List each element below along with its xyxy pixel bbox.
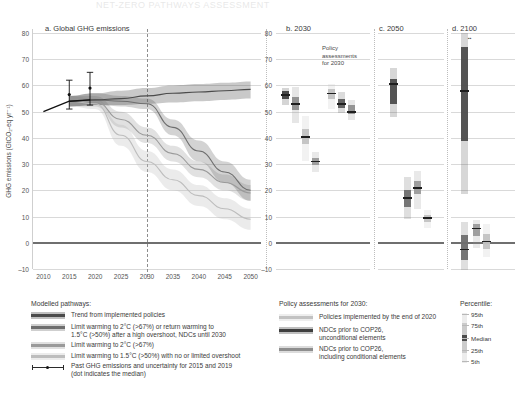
gridline bbox=[378, 269, 444, 270]
panel-a-title: a. Global GHG emissions bbox=[45, 24, 130, 33]
median-marker bbox=[347, 111, 356, 113]
percentile-segment bbox=[348, 114, 355, 119]
panel-a-plot: GHG emissions (GtCO₂-eq yr⁻¹) 8070605040… bbox=[33, 33, 261, 269]
y-tick-label: 70 bbox=[265, 56, 272, 63]
percentile-box bbox=[461, 222, 468, 271]
legend-item-label: Trend from implemented policies bbox=[71, 311, 271, 319]
panel-b-title: b. 2030 bbox=[286, 24, 311, 33]
percentile-segment bbox=[414, 194, 421, 208]
median-marker bbox=[291, 103, 300, 105]
median-marker bbox=[311, 161, 320, 163]
gridline bbox=[276, 85, 370, 86]
y-tick-label: 50 bbox=[22, 108, 29, 115]
panel-d-separator bbox=[447, 29, 448, 269]
pathway-band bbox=[69, 82, 250, 107]
median-marker bbox=[413, 187, 422, 189]
percentile-box bbox=[348, 100, 355, 120]
percentile-segment bbox=[390, 68, 397, 78]
percentile-segment bbox=[292, 87, 299, 97]
percentile-leader-line bbox=[462, 325, 469, 326]
percentile-segment bbox=[328, 99, 335, 109]
panel-d-off-scale-marker: ▪▪ bbox=[468, 35, 472, 41]
gridline bbox=[378, 217, 444, 218]
percentile-segment bbox=[461, 47, 468, 140]
panel-c-plot bbox=[378, 33, 444, 269]
legend-right-title: Policy assessments for 2030: bbox=[279, 300, 367, 307]
percentile-box bbox=[292, 87, 299, 124]
y-tick-label: 10 bbox=[22, 213, 29, 220]
panel-c-title: c. 2050 bbox=[379, 24, 404, 33]
percentile-segment bbox=[390, 104, 397, 117]
median-marker bbox=[301, 136, 310, 138]
legend-percentile-title: Percentile: bbox=[460, 300, 492, 307]
percentile-segment bbox=[462, 341, 467, 353]
legend-swatch bbox=[31, 353, 65, 360]
gridline bbox=[378, 164, 444, 165]
percentile-leader-line bbox=[462, 338, 469, 339]
y-tick-label: 40 bbox=[265, 134, 272, 141]
gridline bbox=[276, 138, 370, 139]
percentile-box bbox=[338, 92, 345, 113]
legend-item-label: NDCs prior to COP26, unconditional eleme… bbox=[319, 326, 459, 342]
median-marker bbox=[460, 249, 469, 251]
percentile-segment bbox=[414, 171, 421, 181]
percentile-box bbox=[312, 152, 319, 172]
y-tick-label: 60 bbox=[22, 82, 29, 89]
percentile-segment bbox=[282, 99, 289, 106]
x-tick-label: 2015 bbox=[62, 273, 76, 280]
gridline bbox=[276, 190, 370, 191]
legend-item-label: NDCs prior to COP26, including condition… bbox=[319, 345, 459, 361]
panel-b-separator bbox=[266, 29, 267, 269]
legend-swatch-core bbox=[31, 326, 65, 329]
percentile-segment bbox=[424, 222, 431, 229]
percentile-segment bbox=[473, 224, 480, 236]
panel-a-pathway-bands bbox=[33, 33, 261, 269]
faded-header-text: NET-ZERO PATHWAYS ASSESSMENT bbox=[96, 0, 270, 10]
percentile-segment bbox=[461, 141, 468, 195]
panel-b-plot: 80706050403020100–10 Policy assessments … bbox=[276, 33, 370, 269]
legend-swatch bbox=[31, 312, 65, 319]
percentile-segment bbox=[348, 105, 355, 114]
y-tick-label: 50 bbox=[265, 108, 272, 115]
legend-swatch-core bbox=[279, 316, 313, 319]
x-tick-label: 2040 bbox=[192, 273, 206, 280]
y-tick-label: 30 bbox=[22, 161, 29, 168]
gridline bbox=[276, 269, 370, 270]
percentile-box bbox=[282, 88, 289, 105]
y-tick-label: –10 bbox=[18, 266, 29, 273]
legend-swatch bbox=[279, 327, 313, 334]
x-tick-label: 2010 bbox=[36, 273, 50, 280]
percentile-box bbox=[414, 171, 421, 209]
y-tick-label: 0 bbox=[268, 239, 272, 246]
y-tick-label: 40 bbox=[22, 134, 29, 141]
percentile-tick-label: 25th bbox=[471, 347, 483, 354]
y-tick-label: 80 bbox=[265, 30, 272, 37]
y-tick-label: 20 bbox=[22, 187, 29, 194]
percentile-leader-line bbox=[462, 314, 469, 315]
legend-swatch-core bbox=[31, 355, 65, 358]
percentile-box bbox=[461, 33, 468, 194]
panel-d-title: d. 2100 bbox=[452, 24, 477, 33]
percentile-segment bbox=[292, 110, 299, 123]
legend-left-title: Modelled pathways: bbox=[31, 300, 91, 307]
percentile-box bbox=[473, 220, 480, 248]
percentile-segment bbox=[483, 224, 490, 233]
percentile-tick-label: 5th bbox=[471, 358, 480, 365]
percentile-tick-label: Median bbox=[471, 335, 491, 342]
legend-item-label: Limit warming to 2°C (>67%) or return wa… bbox=[71, 323, 271, 339]
zero-line bbox=[276, 242, 370, 244]
percentile-box bbox=[302, 116, 309, 162]
percentile-segment bbox=[404, 177, 411, 190]
legend-swatch bbox=[31, 342, 65, 349]
percentile-segment bbox=[473, 236, 480, 248]
percentile-leader-line bbox=[462, 361, 469, 362]
legend-item-label: Limit warming to 1.5°C (>50%) with no or… bbox=[71, 352, 271, 360]
median-marker bbox=[423, 217, 432, 219]
legend-swatch-core bbox=[31, 344, 65, 347]
percentile-box bbox=[424, 210, 431, 228]
panel-b-annotation: Policy assessments for 2030 bbox=[322, 45, 357, 68]
legend-swatch bbox=[279, 346, 313, 353]
percentile-leader-line bbox=[462, 350, 469, 351]
legend-swatch-core bbox=[279, 348, 313, 351]
faded-header-strip: NET-ZERO PATHWAYS ASSESSMENT bbox=[0, 0, 529, 16]
